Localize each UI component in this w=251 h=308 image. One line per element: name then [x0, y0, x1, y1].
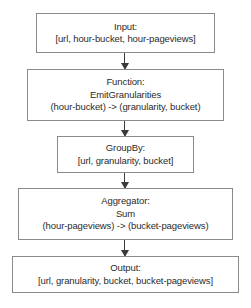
- arrow-function-to-groupby: [124, 121, 125, 136]
- node-aggregator: Aggregator: Sum (hour-pageviews) -> (buc…: [18, 188, 233, 240]
- node-output-line-2: [url, granularity, bucket, bucket-pagevi…: [38, 275, 213, 287]
- node-output: Output: [url, granularity, bucket, bucke…: [12, 256, 239, 293]
- arrow-groupby-to-aggregator: [124, 173, 125, 188]
- node-output-line-1: Output:: [110, 262, 140, 274]
- node-function-line-1: Function:: [106, 76, 144, 88]
- node-groupby-line-2: [url, granularity, bucket]: [78, 155, 173, 167]
- node-groupby-line-1: GroupBy:: [106, 142, 145, 154]
- node-function-line-2: EmitGranularities: [90, 89, 161, 101]
- node-function: Function: EmitGranularities (hour-bucket…: [27, 69, 224, 121]
- node-aggregator-line-1: Aggregator:: [101, 195, 150, 207]
- node-function-line-3: (hour-bucket) -> (granularity, bucket): [51, 101, 201, 113]
- node-groupby: GroupBy: [url, granularity, bucket]: [57, 136, 194, 173]
- arrow-aggregator-to-output: [124, 240, 125, 256]
- node-aggregator-line-2: Sum: [116, 208, 135, 220]
- node-input-line-1: Input:: [114, 21, 137, 33]
- arrow-input-to-function: [124, 53, 125, 69]
- pipeline-flowchart: Input: [url, hour-bucket, hour-pageviews…: [0, 0, 251, 308]
- node-input-line-2: [url, hour-bucket, hour-pageviews]: [55, 33, 195, 45]
- node-input: Input: [url, hour-bucket, hour-pageviews…: [36, 13, 215, 53]
- node-aggregator-line-3: (hour-pageviews) -> (bucket-pageviews): [43, 220, 209, 232]
